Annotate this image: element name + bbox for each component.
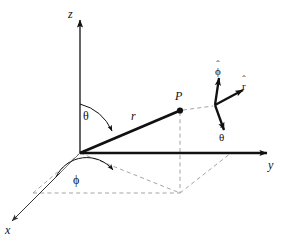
phi-hat-arrow bbox=[215, 78, 219, 105]
r-hat-glyph: r bbox=[242, 81, 246, 92]
theta-hat-label: ˆ θ bbox=[219, 128, 224, 143]
radius-vector bbox=[80, 111, 179, 153]
x-axis-line bbox=[12, 173, 60, 221]
r-hat-label: ˆ r bbox=[242, 77, 246, 92]
point-P-marker bbox=[177, 107, 183, 113]
point-P-label: P bbox=[175, 90, 182, 102]
theta-angle-label: θ bbox=[83, 110, 89, 122]
phi-hat-glyph: ϕ bbox=[215, 66, 221, 77]
x-axis-label: x bbox=[5, 224, 10, 236]
r-hat-arrow bbox=[215, 90, 243, 105]
y-axis-label: y bbox=[268, 159, 273, 171]
phi-angle-arc bbox=[56, 158, 113, 177]
theta-hat-glyph: θ bbox=[219, 132, 224, 143]
unit-vector-triad bbox=[215, 78, 243, 130]
spherical-coordinates-figure: z y x P r θ ϕ ˆ r ˆ ϕ ˆ θ bbox=[0, 0, 283, 243]
radius-label: r bbox=[131, 110, 136, 122]
projection-guides bbox=[80, 106, 213, 193]
diagram-canvas bbox=[0, 0, 283, 243]
phi-angle-label: ϕ bbox=[73, 174, 79, 186]
xy-plane-parallelogram bbox=[33, 153, 231, 193]
phi-hat-label: ˆ ϕ bbox=[215, 62, 221, 77]
z-axis-label: z bbox=[68, 8, 73, 20]
